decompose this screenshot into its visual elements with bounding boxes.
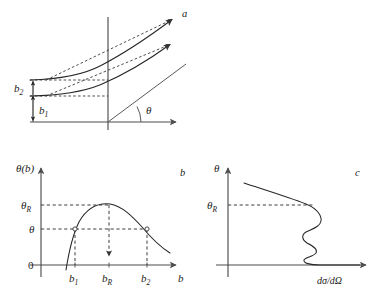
scattering-figure: b2 b1 θ a	[0, 0, 384, 295]
panel-b-letter: b	[180, 167, 185, 178]
panel-a-b1-label: b1	[39, 104, 48, 119]
panel-b-origin-label: 0	[28, 259, 34, 271]
panel-a: b2 b1 θ a	[14, 8, 187, 130]
panel-c-y-axis-label: θ	[214, 162, 220, 174]
panel-c: θ θR dσ/dΩ c	[207, 162, 366, 286]
panel-c-ytick-theta-R: θR	[207, 199, 217, 214]
panel-b-xtick-b2: b2	[141, 272, 151, 287]
panel-a-b2-label: b2	[14, 82, 24, 97]
panel-b-marker-b1	[73, 227, 77, 231]
panel-a-theta-label: θ	[146, 104, 152, 116]
panel-c-x-axis-label: dσ/dΩ	[317, 275, 342, 286]
panel-a-trajectory-b1	[30, 45, 170, 97]
panel-a-asymptote-upper	[46, 20, 172, 81]
panel-a-trajectory-b2	[30, 20, 172, 81]
panel-b-marker-b2	[145, 227, 149, 231]
panel-b-deflection-curve	[66, 204, 170, 270]
panel-b-xtick-bR: bR	[102, 272, 113, 287]
panel-b-ytick-theta: θ	[29, 223, 35, 235]
panel-c-letter: c	[355, 167, 360, 178]
panel-b-xtick-b1: b1	[69, 272, 78, 287]
panel-a-letter: a	[182, 8, 187, 19]
panel-a-theta-arc	[137, 107, 141, 123]
panel-b-y-axis-label: θ(b)	[16, 162, 35, 175]
panel-b-x-axis-label: b	[178, 272, 184, 284]
panel-c-cross-section-curve	[244, 183, 360, 265]
panel-b: θ(b) θR θ 0 b1 bR b2 b b	[16, 162, 185, 287]
panel-b-ytick-theta-R: θR	[21, 199, 31, 214]
figure-root: b2 b1 θ a	[0, 0, 384, 295]
